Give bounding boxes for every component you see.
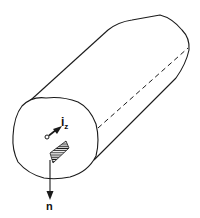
label-n: n <box>46 200 53 212</box>
label-iz: iz <box>61 115 68 131</box>
back-face-outline <box>108 15 189 78</box>
label-z-subscript: z <box>64 122 68 131</box>
prism-diagram <box>0 0 200 218</box>
front-face <box>13 98 98 179</box>
arrowhead-icon <box>47 191 54 200</box>
top-edge <box>22 30 108 108</box>
origin-circle-icon <box>45 135 49 139</box>
hidden-edge-dashed <box>98 48 188 128</box>
bottom-edge <box>94 78 176 160</box>
